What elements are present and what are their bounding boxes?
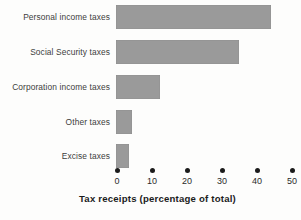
x-axis: 0 10 20 30 40 50 Tax receipts (percentag…	[0, 166, 301, 220]
x-tick-label-50: 50	[272, 176, 301, 186]
x-tick-mark-0	[115, 168, 120, 173]
x-tick-label-0: 0	[97, 176, 137, 186]
x-axis-title-wrapper: Tax receipts (percentage of total)	[0, 193, 301, 204]
x-tick-mark-50	[290, 168, 295, 173]
category-label-social-security-taxes: Social Security taxes	[30, 40, 110, 64]
x-tick-mark-10	[150, 168, 155, 173]
bar-row-personal-income-taxes: Personal income taxes	[0, 5, 301, 29]
x-tick-mark-30	[220, 168, 225, 173]
x-tick-label-30: 30	[202, 176, 242, 186]
bar-corporation-income-taxes	[116, 75, 160, 99]
x-axis-title: Tax receipts (percentage of total)	[65, 193, 236, 204]
bar-row-corporation-income-taxes: Corporation income taxes	[0, 75, 301, 99]
x-tick-label-40: 40	[237, 176, 277, 186]
x-tick-mark-40	[255, 168, 260, 173]
bar-excise-taxes	[116, 144, 129, 168]
category-label-excise-taxes: Excise taxes	[62, 144, 110, 168]
bar-other-taxes	[116, 110, 132, 134]
bar-social-security-taxes	[116, 40, 239, 64]
bar-chart-figure: Personal income taxes Social Security ta…	[0, 0, 301, 220]
bar-row-social-security-taxes: Social Security taxes	[0, 40, 301, 64]
x-tick-label-10: 10	[132, 176, 172, 186]
category-label-other-taxes: Other taxes	[66, 110, 110, 134]
category-label-personal-income-taxes: Personal income taxes	[23, 5, 110, 29]
x-tick-label-20: 20	[167, 176, 207, 186]
bar-personal-income-taxes	[116, 5, 271, 29]
category-label-corporation-income-taxes: Corporation income taxes	[12, 75, 110, 99]
bar-row-other-taxes: Other taxes	[0, 110, 301, 134]
x-tick-mark-20	[185, 168, 190, 173]
bar-row-excise-taxes: Excise taxes	[0, 144, 301, 168]
